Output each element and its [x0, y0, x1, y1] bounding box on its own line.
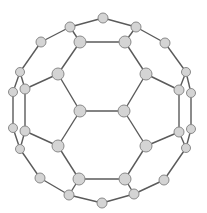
graph-node: [9, 124, 18, 133]
graph-node: [160, 38, 170, 48]
graph-node: [36, 37, 46, 47]
graph-node: [159, 175, 169, 185]
graph-node: [140, 140, 152, 152]
graph-node: [119, 36, 131, 48]
graph-node: [65, 22, 75, 32]
graph-node: [16, 145, 25, 154]
graph-node: [20, 126, 30, 136]
graph-edge: [164, 148, 186, 180]
graph-node: [182, 68, 191, 77]
graph-node: [74, 36, 86, 48]
fullerene-graph-diagram: [0, 0, 207, 213]
graph-node: [119, 173, 131, 185]
graph-node: [98, 13, 108, 23]
graph-node: [73, 173, 85, 185]
graph-node: [20, 84, 30, 94]
graph-node: [187, 89, 196, 98]
graph-node: [52, 140, 64, 152]
graph-node: [97, 198, 107, 208]
graph-node: [182, 144, 191, 153]
graph-node: [64, 190, 74, 200]
graph-node: [52, 68, 64, 80]
graph-node: [118, 105, 130, 117]
graph-node: [131, 22, 141, 32]
graph-node: [74, 105, 86, 117]
graph-node: [35, 173, 45, 183]
graph-node: [9, 88, 18, 97]
graph-node: [140, 68, 152, 80]
graph-node: [174, 85, 184, 95]
graph-node: [187, 125, 196, 134]
graph-node: [129, 189, 139, 199]
graph-node: [174, 127, 184, 137]
graph-node: [16, 68, 25, 77]
